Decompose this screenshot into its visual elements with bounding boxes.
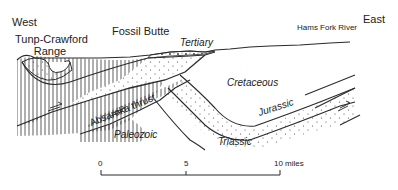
scale-bar [101,170,280,175]
tunp-crawford-range-label: Tunp-Crawford Range [15,34,85,57]
triassic-label: Triassic [218,137,252,147]
paleozoic-label: Paleozoic [114,130,157,140]
scale-tick-0: 0 [98,160,102,168]
west-label: West [12,17,37,28]
fossil-butte-label: Fossil Butte [112,26,169,37]
range-label-line1: Tunp-Crawford [15,34,85,45]
tertiary-label: Tertiary [180,38,213,48]
east-label: East [363,14,385,25]
hams-fork-river-label: Hams Fork River [297,24,357,32]
cretaceous-label: Cretaceous [227,78,278,88]
scale-tick-10-miles: 10 miles [274,160,304,168]
range-label-line2: Range [15,46,85,57]
scale-tick-5: 5 [184,160,188,168]
